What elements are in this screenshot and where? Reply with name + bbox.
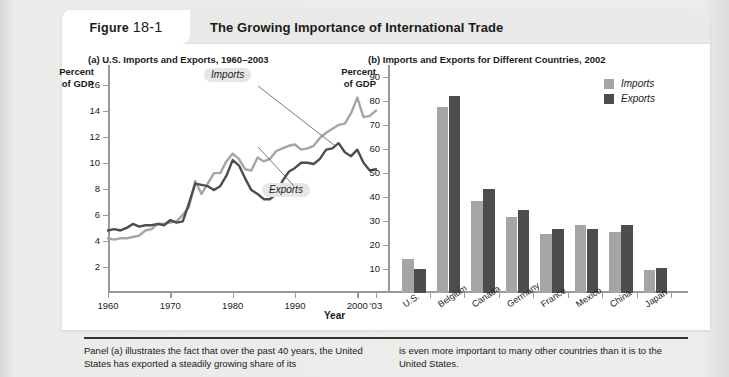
panel-a-x-tick <box>295 293 296 298</box>
legend-swatch-exports <box>604 94 614 104</box>
figure-tag: Figure 18-1 <box>62 10 190 44</box>
bar-us-exports <box>414 269 426 293</box>
figure-header: Figure 18-1 The Growing Importance of In… <box>62 10 710 44</box>
bar-china-imports <box>609 232 621 293</box>
figure-card: Figure 18-1 The Growing Importance of In… <box>62 10 710 330</box>
panel-b-x-tick <box>499 293 500 298</box>
panel-a-x-tick-label: '03 <box>360 300 392 311</box>
caption-divider <box>84 337 688 339</box>
panel-b-category-label: U.S. <box>401 291 421 309</box>
panel-b-legend: ImportsExports <box>604 78 655 108</box>
bar-belgium-imports <box>437 107 449 293</box>
panel-b-y-tick-label: 80 <box>352 95 380 106</box>
panel-a-y-tick-label: 14 <box>70 105 100 116</box>
panel-a-y-tick-label: 6 <box>70 209 100 220</box>
panel-a-x-tick <box>170 293 171 298</box>
panel-a-x-tick <box>357 293 358 298</box>
panel-a-series-imports <box>108 98 376 240</box>
panel-a-y-tick <box>103 137 108 138</box>
panel-a-y-tick-label: 10 <box>70 157 100 168</box>
panel-a-y-tick <box>103 267 108 268</box>
figure-tag-prefix: Figure <box>90 21 129 35</box>
bar-france-imports <box>540 234 552 293</box>
panel-b-y-tick-label: 90 <box>352 71 380 82</box>
figure-caption: Panel (a) illustrates the fact that over… <box>84 337 688 370</box>
panel-b-x-tick <box>671 293 672 298</box>
bar-us-imports <box>402 259 414 293</box>
panel-a-y-caption-line1: Percent <box>24 66 94 78</box>
legend-item-exports: Exports <box>604 93 655 104</box>
panel-a-x-tick-label: 1960 <box>92 300 124 311</box>
panel-a-x-tick <box>108 293 109 298</box>
panel-a-x-axis-name: Year <box>324 310 345 321</box>
panel-a-y-tick-label: 12 <box>70 131 100 142</box>
panel-b-x-tick <box>430 293 431 298</box>
bar-canada-exports <box>483 189 495 293</box>
panel-b-y-tick <box>383 101 388 102</box>
figure-title: The Growing Importance of International … <box>210 10 503 44</box>
panel-b-y-tick-label: 60 <box>352 143 380 154</box>
panel-b-y-tick <box>383 125 388 126</box>
bar-mexico-exports <box>587 229 599 293</box>
panel-a-x-tick-label: 1980 <box>217 300 249 311</box>
panel-b-title: (b) Imports and Exports for Different Co… <box>368 54 606 65</box>
panel-a-line-chart <box>108 65 390 293</box>
figure-tag-text: Figure 18-1 <box>90 19 163 35</box>
panel-a-y-tick-label: 4 <box>70 235 100 246</box>
panel-a-y-tick-label: 16 <box>70 79 100 90</box>
panel-a-y-tick <box>103 85 108 86</box>
panel-a-imports-callout: Imports <box>204 68 251 82</box>
panel-a-y-tick-label: 2 <box>70 261 100 272</box>
bar-canada-imports <box>471 201 483 293</box>
panel-a-x-tick-label: 1990 <box>279 300 311 311</box>
legend-label-exports: Exports <box>621 93 655 104</box>
panel-a-exports-callout: Exports <box>262 183 310 197</box>
panel-b-y-tick-label: 70 <box>352 119 380 130</box>
caption-right-column: is even more important to many other cou… <box>399 344 688 370</box>
panel-a-x-tick <box>376 293 377 298</box>
legend-swatch-imports <box>604 79 614 89</box>
panel-b-y-tick <box>383 197 388 198</box>
bar-germany-imports <box>506 217 518 293</box>
panel-b-y-tick <box>383 149 388 150</box>
panel-b-x-tick <box>568 293 569 298</box>
bar-china-exports <box>621 225 633 293</box>
panel-a-y-tick <box>103 241 108 242</box>
panel-a-title: (a) U.S. Imports and Exports, 1960–2003 <box>88 54 269 65</box>
panel-b-y-tick <box>383 245 388 246</box>
bar-japan-imports <box>644 270 656 293</box>
panel-a-x-tick-label: 1970 <box>154 300 186 311</box>
legend-item-imports: Imports <box>604 78 655 89</box>
panel-b-y-tick <box>383 221 388 222</box>
legend-label-imports: Imports <box>621 78 654 89</box>
panel-a-y-tick <box>103 111 108 112</box>
panel-b-y-tick <box>383 77 388 78</box>
panel-a-x-tick <box>233 293 234 298</box>
panel-b-y-tick-label: 40 <box>352 191 380 202</box>
panel-a-y-tick <box>103 163 108 164</box>
caption-left-column: Panel (a) illustrates the fact that over… <box>84 344 373 370</box>
panel-a-y-tick <box>103 215 108 216</box>
bar-mexico-imports <box>575 225 587 293</box>
panel-b-y-tick <box>383 269 388 270</box>
panel-b-y-tick-label: 20 <box>352 239 380 250</box>
panel-b-y-axis <box>388 65 390 293</box>
bar-france-exports <box>552 229 564 293</box>
panel-b-y-tick-label: 10 <box>352 263 380 274</box>
panel-a-y-tick-label: 8 <box>70 183 100 194</box>
bar-belgium-exports <box>449 96 461 293</box>
panel-b-y-tick-label: 50 <box>352 167 380 178</box>
panel-a-series-exports <box>108 143 376 230</box>
panel-b-y-tick-label: 30 <box>352 215 380 226</box>
panel-b-y-tick <box>383 173 388 174</box>
figure-tag-number: 18-1 <box>133 19 163 35</box>
panel-b-x-tick <box>637 293 638 298</box>
panel-a-y-tick <box>103 189 108 190</box>
bar-germany-exports <box>518 210 530 293</box>
panel-a-plot-area: 24681012141619601970198019902000'03 <box>108 65 390 293</box>
